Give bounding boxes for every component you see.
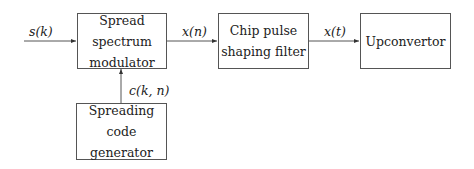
spreading-code-generator-block: Spreading code generator	[76, 103, 167, 160]
spread-spectrum-transmitter-diagram: Spread spectrum modulator Chip pulse sha…	[0, 0, 474, 169]
signal-label-ckn: c(k, n)	[129, 83, 169, 98]
block-label-line: Spread spectrum	[78, 10, 166, 52]
signal-label-xt: x(t)	[324, 24, 346, 39]
block-label-line: shaping filter	[221, 41, 306, 62]
block-label-line: modulator	[78, 52, 166, 73]
block-label-line: Chip pulse	[221, 20, 306, 41]
block-label-line: Spreading code	[77, 100, 166, 142]
signal-label-sk: s(k)	[29, 24, 53, 39]
upconvertor-block: Upconvertor	[360, 13, 451, 69]
chip-pulse-shaping-filter-block: Chip pulse shaping filter	[218, 13, 309, 69]
block-label-line: generator	[77, 142, 166, 163]
signal-label-xn: x(n)	[182, 24, 207, 39]
spread-spectrum-modulator-block: Spread spectrum modulator	[77, 13, 167, 69]
block-label-line: Upconvertor	[365, 31, 445, 52]
